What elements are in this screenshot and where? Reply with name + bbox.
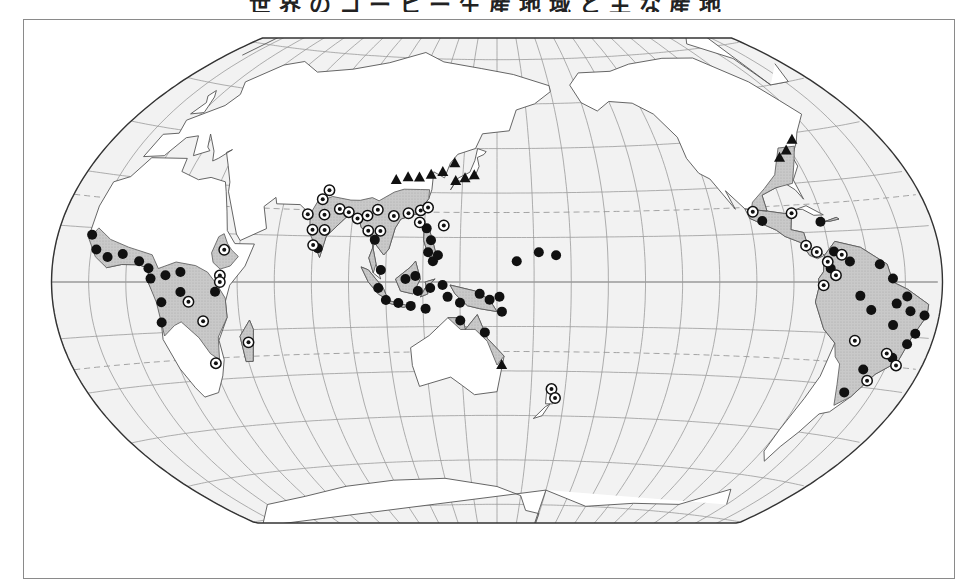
filled-circle-marker	[480, 327, 490, 337]
filled-circle-marker	[160, 270, 170, 280]
filled-circle-marker	[118, 249, 128, 259]
ringed-circle-marker	[837, 250, 847, 260]
ringed-circle-marker	[818, 280, 828, 290]
ringed-circle-marker	[243, 337, 253, 347]
filled-circle-marker	[175, 267, 185, 277]
ringed-circle-marker	[362, 210, 372, 220]
ringed-circle-marker	[198, 316, 208, 326]
ringed-circle-marker	[748, 207, 758, 217]
filled-circle-marker	[839, 387, 849, 397]
filled-circle-marker	[103, 252, 113, 262]
ringed-circle-marker	[324, 185, 334, 195]
filled-circle-marker	[175, 287, 185, 297]
filled-circle-marker	[210, 287, 220, 297]
filled-circle-marker	[858, 365, 868, 375]
filled-circle-marker	[855, 291, 865, 301]
filled-circle-marker	[485, 295, 495, 305]
filled-circle-marker	[902, 339, 912, 349]
filled-circle-marker	[406, 301, 416, 311]
ringed-circle-marker	[219, 245, 229, 255]
ringed-circle-marker	[303, 209, 313, 219]
ringed-circle-marker	[823, 257, 833, 267]
filled-circle-marker	[146, 274, 156, 284]
filled-circle-marker	[410, 271, 420, 281]
filled-circle-marker	[888, 273, 898, 283]
filled-circle-marker	[497, 307, 507, 317]
filled-circle-marker	[455, 316, 465, 326]
filled-circle-marker	[905, 306, 915, 316]
filled-circle-marker	[421, 304, 431, 314]
ringed-circle-marker	[423, 202, 433, 212]
filled-circle-marker	[866, 305, 876, 315]
filled-circle-marker	[757, 216, 767, 226]
ringed-circle-marker	[831, 270, 841, 280]
filled-circle-marker	[551, 250, 561, 260]
ringed-circle-marker	[319, 209, 329, 219]
ringed-circle-marker	[812, 247, 822, 257]
ringed-circle-marker	[352, 213, 362, 223]
filled-circle-marker	[156, 297, 166, 307]
ringed-circle-marker	[389, 211, 399, 221]
ringed-circle-marker	[318, 194, 328, 204]
ringed-circle-marker	[373, 205, 383, 215]
filled-circle-marker	[875, 259, 885, 269]
filled-circle-marker	[91, 245, 101, 255]
filled-circle-marker	[423, 247, 433, 257]
filled-circle-marker	[376, 265, 386, 275]
filled-circle-marker	[143, 263, 153, 273]
ringed-circle-marker	[363, 226, 373, 236]
ringed-circle-marker	[882, 348, 892, 358]
ringed-circle-marker	[211, 358, 221, 368]
ringed-circle-marker	[215, 277, 225, 287]
filled-circle-marker	[494, 292, 504, 302]
filled-circle-marker	[87, 230, 97, 240]
filled-circle-marker	[134, 256, 144, 266]
ringed-circle-marker	[415, 217, 425, 227]
filled-circle-marker	[455, 298, 465, 308]
ringed-circle-marker	[891, 360, 901, 370]
filled-circle-marker	[381, 295, 391, 305]
ringed-circle-marker	[550, 393, 560, 403]
filled-circle-marker	[433, 250, 443, 260]
filled-circle-marker	[425, 283, 435, 293]
ringed-circle-marker	[439, 220, 449, 230]
filled-circle-marker	[157, 318, 167, 328]
ringed-circle-marker	[850, 336, 860, 346]
ringed-circle-marker	[183, 297, 193, 307]
ringed-circle-marker	[786, 208, 796, 218]
ringed-circle-marker	[862, 375, 872, 385]
filled-circle-marker	[888, 320, 898, 330]
filled-circle-marker	[815, 217, 825, 227]
ringed-circle-marker	[307, 225, 317, 235]
ringed-circle-marker	[403, 208, 413, 218]
filled-circle-marker	[475, 289, 485, 299]
filled-circle-marker	[400, 274, 410, 284]
filled-circle-marker	[426, 235, 436, 245]
filled-circle-marker	[534, 247, 544, 257]
filled-circle-marker	[393, 298, 403, 308]
ringed-circle-marker	[319, 225, 329, 235]
filled-circle-marker	[902, 292, 912, 302]
filled-circle-marker	[413, 286, 423, 296]
ringed-circle-marker	[375, 226, 385, 236]
filled-circle-marker	[910, 329, 920, 339]
filled-circle-marker	[920, 311, 930, 321]
filled-circle-marker	[892, 299, 902, 309]
filled-circle-marker	[373, 283, 383, 293]
ringed-circle-marker	[801, 240, 811, 250]
filled-circle-marker	[438, 280, 448, 290]
filled-circle-marker	[443, 292, 453, 302]
ringed-circle-marker	[308, 240, 318, 250]
filled-circle-marker	[512, 256, 522, 266]
